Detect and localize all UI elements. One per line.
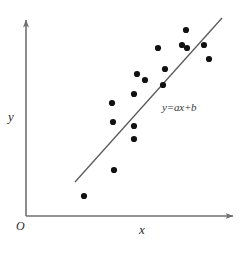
data-point	[155, 45, 161, 51]
data-point	[134, 71, 140, 77]
data-point	[201, 42, 207, 48]
data-point	[206, 56, 212, 62]
line-equation-label: y=ax+b	[162, 101, 196, 113]
data-point	[110, 119, 116, 125]
data-point	[111, 167, 117, 173]
data-point	[131, 91, 137, 97]
axes-group	[26, 20, 233, 216]
data-point	[184, 45, 190, 51]
trendline-segment	[75, 18, 222, 182]
plot-canvas	[0, 0, 245, 254]
data-point	[131, 123, 137, 129]
scatter-plot-figure: y x O y=ax+b	[0, 0, 245, 254]
data-point	[162, 66, 168, 72]
data-point	[109, 100, 115, 106]
bottom-cropped-caption	[62, 243, 192, 254]
data-points-group	[81, 27, 212, 199]
data-point	[183, 27, 189, 33]
data-point	[81, 193, 87, 199]
origin-label: O	[16, 219, 25, 234]
x-axis-label: x	[139, 222, 145, 238]
data-point	[142, 77, 148, 83]
y-axis-label: y	[8, 109, 14, 125]
data-point	[131, 136, 137, 142]
regression-line	[75, 18, 222, 182]
data-point	[160, 82, 166, 88]
